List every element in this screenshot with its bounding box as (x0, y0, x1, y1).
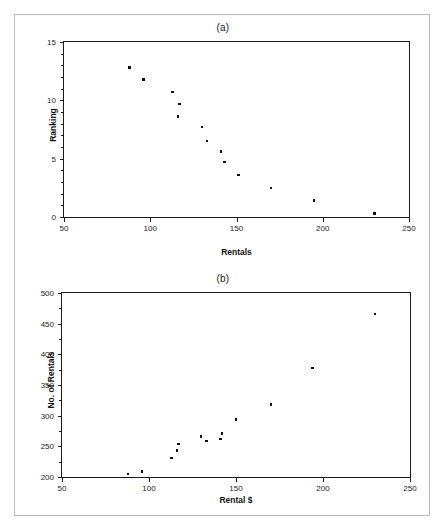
data-point (220, 150, 223, 153)
chart-a-y-tick (60, 42, 64, 43)
chart-b-y-tick-label: 300 (24, 411, 54, 420)
chart-b-y-minor-tick (59, 400, 62, 401)
chart-b-y-tick-label: 450 (24, 319, 54, 328)
chart-a-y-minor-tick (61, 194, 64, 195)
chart-a-y-tick-label: 0 (26, 213, 56, 222)
chart-b-y-tick (58, 354, 62, 355)
chart-a-x-tick-label: 150 (222, 224, 252, 233)
data-point (177, 115, 180, 118)
chart-b-y-minor-tick (59, 462, 62, 463)
data-point (200, 435, 203, 438)
chart-a-x-tick (409, 217, 410, 222)
chart-a-y-minor-tick (61, 135, 64, 136)
chart-a-y-minor-tick (61, 89, 64, 90)
data-point (178, 103, 181, 106)
chart-a-y-tick-label: 10 (26, 96, 56, 105)
chart-b-x-tick-label: 150 (221, 484, 251, 493)
chart-b-y-tick (58, 324, 62, 325)
chart-a-x-tick (323, 217, 324, 222)
chart-a-y-minor-tick (61, 147, 64, 148)
data-point (170, 457, 173, 460)
data-point (235, 418, 238, 421)
data-point (127, 473, 130, 476)
chart-b-y-minor-tick (59, 308, 62, 309)
chart-a-y-tick-label: 5 (26, 154, 56, 163)
data-point (270, 187, 273, 190)
chart-a-x-tick (150, 217, 151, 222)
chart-b-title: (b) (0, 273, 446, 284)
data-point (270, 403, 273, 406)
chart-a-title: (a) (0, 22, 446, 33)
chart-a-x-tick-label: 50 (49, 224, 79, 233)
data-point (201, 126, 204, 129)
data-point (223, 161, 226, 164)
chart-b-x-tick (236, 477, 237, 482)
chart-b-y-tick-label: 400 (24, 350, 54, 359)
chart-b-y-minor-tick (59, 339, 62, 340)
chart-b-x-tick-label: 50 (47, 484, 77, 493)
data-point (206, 140, 209, 143)
data-point (311, 367, 314, 370)
chart-a-y-minor-tick (61, 54, 64, 55)
chart-b-x-tick (323, 477, 324, 482)
chart-a-x-tick (237, 217, 238, 222)
chart-b-y-tick-label: 200 (24, 473, 54, 482)
chart-b-y-tick (58, 293, 62, 294)
chart-a-y-tick (60, 159, 64, 160)
chart-a-x-tick (64, 217, 65, 222)
chart-b-y-tick-label: 250 (24, 442, 54, 451)
data-point (373, 212, 376, 215)
chart-a-x-tick-label: 200 (308, 224, 338, 233)
chart-a-y-minor-tick (61, 65, 64, 66)
chart-b-y-minor-tick (59, 370, 62, 371)
chart-a-y-minor-tick (61, 205, 64, 206)
chart-b-x-tick (62, 477, 63, 482)
chart-a-x-axis-label: Rentals (64, 247, 409, 257)
chart-b-x-tick-label: 200 (308, 484, 338, 493)
chart-b-x-tick-label: 100 (134, 484, 164, 493)
chart-b-x-tick (410, 477, 411, 482)
chart-a-x-tick-label: 100 (135, 224, 165, 233)
data-point (171, 91, 174, 94)
data-point (221, 432, 224, 435)
chart-a-y-minor-tick (61, 124, 64, 125)
data-point (141, 470, 144, 473)
scatter-figure: (a) Ranking Rentals 05101550100150200250… (0, 0, 446, 531)
chart-a-y-axis-label: Ranking (48, 108, 58, 142)
data-point (142, 78, 145, 81)
chart-a-y-minor-tick (61, 77, 64, 78)
chart-b-x-tick (149, 477, 150, 482)
chart-b-y-tick (58, 446, 62, 447)
chart-a-y-minor-tick (61, 182, 64, 183)
chart-a-y-tick-label: 15 (26, 38, 56, 47)
chart-a-y-minor-tick (61, 112, 64, 113)
data-point (374, 313, 377, 316)
chart-b-y-minor-tick (59, 431, 62, 432)
chart-b-y-tick (58, 416, 62, 417)
chart-panel-a: (a) Ranking Rentals 05101550100150200250 (0, 0, 446, 265)
chart-a-y-tick (60, 100, 64, 101)
data-point (128, 66, 131, 69)
data-point (219, 438, 222, 441)
chart-a-y-minor-tick (61, 170, 64, 171)
chart-b-x-tick-label: 250 (395, 484, 425, 493)
chart-panel-b: (b) No. of Rentals Rental $ 200250300350… (0, 265, 446, 531)
data-point (176, 449, 179, 452)
data-point (177, 443, 180, 446)
chart-b-y-tick (58, 385, 62, 386)
chart-b-plot-area: No. of Rentals Rental $ 2002503003504004… (61, 292, 411, 478)
chart-a-plot-area: Ranking Rentals 05101550100150200250 (63, 41, 410, 218)
chart-a-x-tick-label: 250 (394, 224, 424, 233)
chart-b-x-axis-label: Rental $ (62, 495, 410, 505)
data-point (237, 174, 240, 177)
chart-b-y-tick-label: 350 (24, 381, 54, 390)
chart-b-y-tick-label: 500 (24, 289, 54, 298)
data-point (313, 199, 316, 202)
data-point (205, 440, 208, 443)
